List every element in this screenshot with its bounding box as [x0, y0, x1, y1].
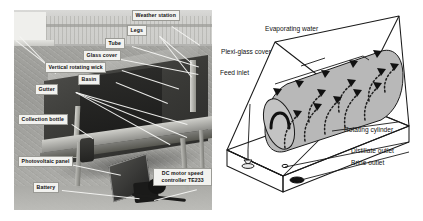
photo-collection-bottle: [80, 137, 94, 162]
label-photovoltaic-panel: Photovoltaic panel: [18, 156, 73, 167]
rotating-cylinder-still-diagram: [213, 0, 423, 221]
label-brine-outlet: Brine outlet: [351, 159, 384, 166]
label-gutter: Gutter: [35, 84, 58, 95]
label-plexi-glass-cover: Plexi-glass cover: [221, 48, 271, 55]
label-basin: Basin: [78, 74, 100, 85]
photo-panel: Weather station Legs Tube Glass cover Ve…: [0, 0, 213, 221]
label-tube: Tube: [105, 38, 125, 49]
label-evaporating-water: Evaporating water: [265, 25, 318, 32]
label-distillate-outlet: Distillate outlet: [351, 147, 394, 154]
distillate-outlet-port: [282, 164, 288, 167]
label-rotating-cylinder: Rotating cylinder: [344, 126, 393, 133]
leader-feed-inlet: [248, 104, 250, 150]
label-feed-inlet: Feed inlet: [220, 69, 249, 76]
figure-root: Weather station Legs Tube Glass cover Ve…: [0, 0, 423, 221]
rotating-cylinder-body: [258, 50, 403, 153]
label-dc-motor-speed-controller: DC motor speed controller TE233: [153, 168, 212, 186]
label-glass-cover: Glass cover: [83, 50, 121, 61]
leader-evaporating-water: [301, 58, 325, 66]
label-legs: Legs: [127, 25, 147, 36]
feed-inlet-valve: [242, 150, 254, 168]
label-battery: Battery: [33, 182, 59, 193]
diagram-panel: Evaporating water Plexi-glass cover Feed…: [213, 0, 423, 221]
photo-post-right: [190, 60, 196, 112]
leader-brine-outlet: [297, 152, 409, 181]
tray-front-left: [227, 150, 283, 192]
label-collection-bottle: Collection bottle: [18, 114, 68, 125]
label-weather-station: Weather station: [132, 10, 180, 21]
label-vertical-rotating-wick: Vertical rotating wick: [45, 62, 106, 73]
